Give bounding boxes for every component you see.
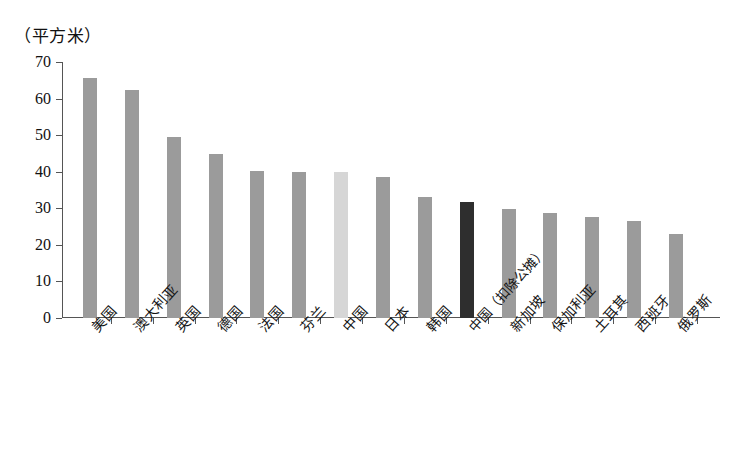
bar-chart: （平方米） 010203040506070 美国澳大利亚英国德国法国芬兰中国日本… <box>0 0 745 473</box>
y-axis-tick-label: 60 <box>35 90 51 108</box>
y-axis-tick-label: 70 <box>35 53 51 71</box>
y-axis-tick-label: 50 <box>35 126 51 144</box>
bar <box>334 172 348 318</box>
y-axis-tick-mark <box>56 99 62 100</box>
y-axis-tick-mark <box>56 281 62 282</box>
y-axis-tick-label: 30 <box>35 199 51 217</box>
y-axis-tick-mark <box>56 245 62 246</box>
y-axis-tick-mark <box>56 318 62 319</box>
bar <box>376 177 390 318</box>
y-axis-tick-label: 10 <box>35 272 51 290</box>
plot-area: 010203040506070 <box>62 62 720 318</box>
y-axis-tick-label: 40 <box>35 163 51 181</box>
y-axis-tick-label: 0 <box>43 309 51 327</box>
bar <box>292 172 306 318</box>
chart-unit-title: （平方米） <box>14 22 102 47</box>
bar <box>250 171 264 318</box>
bar <box>125 90 139 318</box>
bar <box>209 154 223 318</box>
bar <box>83 78 97 318</box>
bar <box>418 197 432 318</box>
y-axis-tick-mark <box>56 208 62 209</box>
y-axis-tick-label: 20 <box>35 236 51 254</box>
y-axis-tick-mark <box>56 172 62 173</box>
y-axis-tick-mark <box>56 135 62 136</box>
bar <box>460 202 474 318</box>
y-axis-tick-mark <box>56 62 62 63</box>
